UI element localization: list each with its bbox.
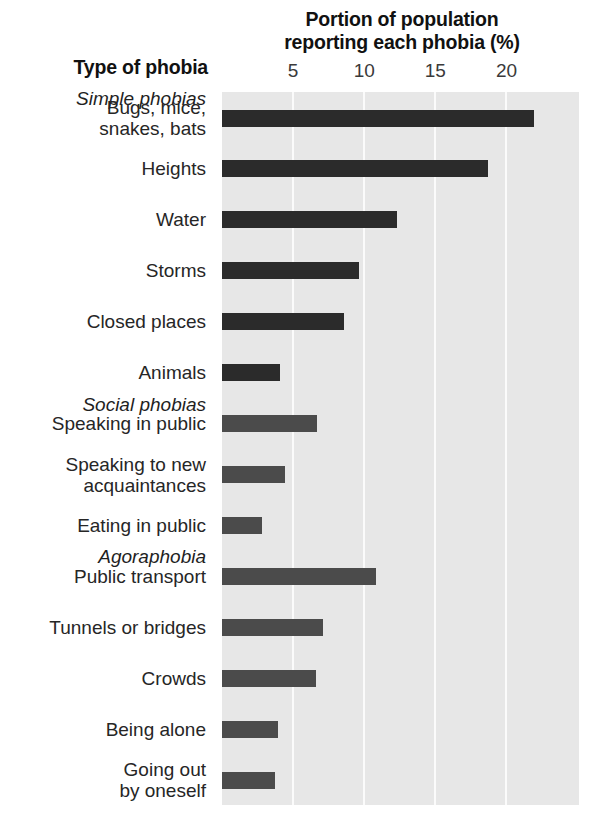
category-label-line: Speaking to new (0, 454, 206, 475)
bar-water (222, 211, 397, 228)
group-header-social-phobias: Social phobias (0, 394, 206, 415)
category-label-public-transport: Public transport (0, 566, 206, 587)
x-tick-label-20: 20 (476, 60, 536, 82)
category-label-being-alone: Being alone (0, 719, 206, 740)
bar-going-out-by-oneself (222, 772, 275, 789)
plot-area (222, 92, 579, 805)
group-header-label: Social phobias (0, 394, 206, 415)
bar-animals (222, 364, 280, 381)
x-axis-tick-labels: 5101520 (0, 60, 595, 86)
bar-speaking-to-new-acquaintances (222, 466, 285, 483)
gridline-15 (434, 92, 436, 805)
phobia-bar-chart: Portion of population reporting each pho… (0, 0, 595, 835)
category-label-line: Water (0, 209, 206, 230)
bar-speaking-in-public (222, 415, 317, 432)
category-label-line: Public transport (0, 566, 206, 587)
category-label-closed-places: Closed places (0, 311, 206, 332)
category-label-storms: Storms (0, 260, 206, 281)
category-label-line: Bugs, mice, (0, 97, 206, 118)
category-label-line: Going out (0, 759, 206, 780)
category-label-bugs-mice-snakes-bats: Bugs, mice,snakes, bats (0, 97, 206, 139)
bar-being-alone (222, 721, 278, 738)
bar-heights (222, 160, 488, 177)
category-label-heights: Heights (0, 158, 206, 179)
bar-storms (222, 262, 359, 279)
category-label-crowds: Crowds (0, 668, 206, 689)
category-label-column: Simple phobiasBugs, mice,snakes, batsHei… (0, 92, 212, 805)
axis-title-line-1: Portion of population (306, 8, 499, 30)
gridline-10 (363, 92, 365, 805)
category-label-speaking-to-new-acquaintances: Speaking to newacquaintances (0, 454, 206, 496)
category-label-animals: Animals (0, 362, 206, 383)
category-label-line: Animals (0, 362, 206, 383)
group-header-label: Agoraphobia (0, 546, 206, 567)
group-header-agoraphobia: Agoraphobia (0, 546, 206, 567)
gridline-5 (292, 92, 294, 805)
category-label-line: Closed places (0, 311, 206, 332)
category-label-line: Tunnels or bridges (0, 617, 206, 638)
bar-crowds (222, 670, 316, 687)
category-label-line: acquaintances (0, 475, 206, 496)
category-label-water: Water (0, 209, 206, 230)
x-tick-label-10: 10 (334, 60, 394, 82)
category-label-tunnels-or-bridges: Tunnels or bridges (0, 617, 206, 638)
bar-tunnels-or-bridges (222, 619, 323, 636)
category-label-speaking-in-public: Speaking in public (0, 413, 206, 434)
category-label-line: by oneself (0, 780, 206, 801)
bar-public-transport (222, 568, 376, 585)
category-label-line: snakes, bats (0, 118, 206, 139)
bar-eating-in-public (222, 517, 262, 534)
category-label-line: Heights (0, 158, 206, 179)
axis-title-line-2: reporting each phobia (%) (284, 31, 520, 53)
category-label-line: Crowds (0, 668, 206, 689)
x-tick-label-5: 5 (263, 60, 323, 82)
gridline-20 (505, 92, 507, 805)
category-label-line: Speaking in public (0, 413, 206, 434)
category-label-line: Being alone (0, 719, 206, 740)
bar-closed-places (222, 313, 344, 330)
category-label-eating-in-public: Eating in public (0, 515, 206, 536)
bar-bugs-mice-snakes-bats (222, 110, 534, 127)
category-label-going-out-by-oneself: Going outby oneself (0, 759, 206, 801)
category-label-line: Eating in public (0, 515, 206, 536)
x-tick-label-15: 15 (405, 60, 465, 82)
category-label-line: Storms (0, 260, 206, 281)
chart-axis-title: Portion of population reporting each pho… (222, 8, 582, 54)
